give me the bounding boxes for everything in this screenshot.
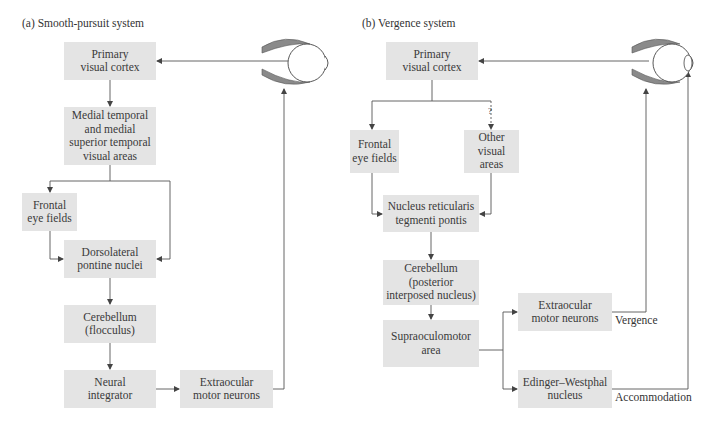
node-primary-visual-cortex-a: Primary visual cortex [64,42,156,80]
accommodation-label: Accommodation [615,391,692,403]
node-supraoculomotor-area: Supraoculomotor area [383,320,479,367]
node-nucleus-reticularis-tegmenti-pontis: Nucleus reticularis tegmenti pontis [383,195,479,232]
eye-icon-vergence [632,39,693,84]
eye-icon-smooth-pursuit [262,39,328,84]
node-extraocular-motor-neurons-b: Extraocular motor neurons [518,293,612,331]
node-edinger-westphal-nucleus: Edinger–Westphal nucleus [518,370,612,408]
node-frontal-eye-fields-b: Frontal eye fields [350,130,399,173]
uncertain-path-marker: ? [488,106,492,116]
node-cerebellum-posterior-interposed: Cerebellum (posterior interposed nucleus… [383,260,479,305]
node-primary-visual-cortex-b: Primary visual cortex [386,42,478,80]
node-extraocular-motor-neurons-a: Extraocular motor neurons [180,370,273,408]
panel-title-vergence: (b) Vergence system [362,17,455,29]
node-frontal-eye-fields-a: Frontal eye fields [22,193,77,231]
node-dorsolateral-pontine-nuclei: Dorsolateral pontine nuclei [64,240,156,278]
node-neural-integrator: Neural integrator [64,370,156,408]
vergence-label: Vergence [615,314,658,326]
node-mt-mst: Medial temporal and medial superior temp… [64,107,156,165]
panel-title-smooth-pursuit: (a) Smooth-pursuit system [22,17,144,29]
node-cerebellum-flocculus: Cerebellum (flocculus) [64,305,156,343]
node-other-visual-areas: Other visual areas [464,130,519,173]
